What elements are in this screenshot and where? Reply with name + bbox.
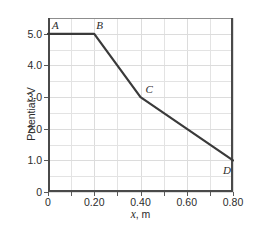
point-label-d: D [223, 164, 231, 176]
x-tick-label: 0.20 [84, 196, 104, 208]
y-tick-label: 0 [36, 186, 42, 198]
point-label-b: B [96, 19, 103, 31]
y-tick-label: 4.0 [27, 59, 42, 71]
gridline-vertical [233, 18, 234, 192]
y-tick-label: 3.0 [27, 91, 42, 103]
plot-area: 00.200.400.600.80 01.02.03.04.05.0 ABCD [48, 18, 233, 192]
y-tick-label: 1.0 [27, 154, 42, 166]
x-tick-label: 0.60 [177, 196, 197, 208]
y-tick-label: 2.0 [27, 123, 42, 135]
x-axis-title: x, m [48, 208, 233, 220]
point-label-c: C [146, 83, 153, 95]
x-tick [210, 192, 211, 196]
x-tick [117, 192, 118, 196]
x-tick [71, 192, 72, 196]
x-tick [164, 192, 165, 196]
x-tick-label: 0.80 [223, 196, 243, 208]
potential-vs-position-chart: Potential, V x, m 00.200.400.600.80 01.0… [0, 0, 256, 228]
x-axis-title-unit: , m [136, 208, 151, 220]
x-tick-label: 0.40 [130, 196, 150, 208]
point-label-a: A [52, 19, 59, 31]
y-tick [44, 192, 48, 193]
potential-curve [48, 18, 233, 192]
x-tick-label: 0 [45, 196, 51, 208]
y-tick-label: 5.0 [27, 28, 42, 40]
